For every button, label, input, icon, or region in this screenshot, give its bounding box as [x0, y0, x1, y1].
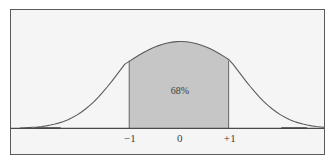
shaded-area-percent-label: 68%: [171, 85, 189, 96]
normal-distribution-figure: −1 0 +1 68%: [10, 9, 325, 155]
x-tick-label-minus-one: −1: [124, 132, 137, 144]
figure-container: −1 0 +1 68%: [0, 0, 336, 166]
distribution-plot-svg: [11, 10, 324, 154]
x-tick-label-zero: 0: [177, 132, 183, 144]
x-tick-label-plus-one: +1: [224, 132, 237, 144]
